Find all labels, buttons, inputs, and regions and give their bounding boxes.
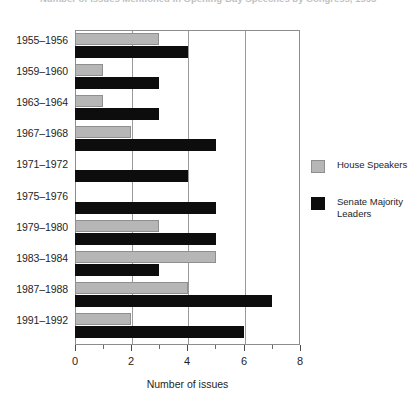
bar-house-speakers (75, 282, 188, 294)
legend-swatch-icon (311, 160, 325, 173)
category-label: 1979–1980 (0, 221, 68, 233)
bar-senate-majority-leaders (75, 77, 159, 89)
chart-title: Number of Issues Mentioned in Opening-Da… (40, 0, 380, 7)
bar-house-speakers (75, 33, 159, 45)
x-tick-label: 6 (229, 355, 259, 367)
bar-senate-majority-leaders (75, 139, 216, 151)
legend-label: House Speakers (337, 159, 417, 171)
x-tick-minor (272, 345, 273, 349)
bar-senate-majority-leaders (75, 233, 216, 245)
bar-house-speakers (75, 251, 216, 263)
category-label: 1967–1968 (0, 127, 68, 139)
category-label: 1975–1976 (0, 190, 68, 202)
x-tick-minor (159, 345, 160, 349)
x-tick-major (75, 345, 76, 351)
category-label: 1959–1960 (0, 65, 68, 77)
bar-chart: Number of Issues Mentioned in Opening-Da… (0, 0, 417, 420)
category-label: 1971–1972 (0, 158, 68, 170)
bar-house-speakers (75, 95, 103, 107)
category-label: 1955–1956 (0, 34, 68, 46)
x-tick-major (131, 345, 132, 351)
category-label: 1991–1992 (0, 314, 68, 326)
x-tick-label: 4 (172, 355, 202, 367)
bar-house-speakers (75, 220, 159, 232)
bar-senate-majority-leaders (75, 108, 159, 120)
bar-house-speakers (75, 313, 131, 325)
bar-senate-majority-leaders (75, 264, 159, 276)
bar-senate-majority-leaders (75, 295, 272, 307)
bar-senate-majority-leaders (75, 326, 244, 338)
x-tick-minor (215, 345, 216, 349)
category-label: 1983–1984 (0, 252, 68, 264)
x-tick-major (187, 345, 188, 351)
bar-house-speakers (75, 64, 103, 76)
x-tick-major (300, 345, 301, 351)
legend-label: Senate Majority Leaders (337, 196, 417, 219)
category-label: 1987–1988 (0, 283, 68, 295)
bar-senate-majority-leaders (75, 46, 188, 58)
x-tick-major (244, 345, 245, 351)
x-tick-label: 2 (116, 355, 146, 367)
category-label: 1963–1964 (0, 96, 68, 108)
bar-rows (75, 30, 300, 345)
x-tick-label: 8 (285, 355, 315, 367)
x-axis-title: Number of issues (75, 378, 300, 390)
bar-senate-majority-leaders (75, 170, 188, 182)
bar-senate-majority-leaders (75, 202, 216, 214)
x-tick-minor (103, 345, 104, 349)
bar-house-speakers (75, 126, 131, 138)
x-tick-label: 0 (60, 355, 90, 367)
legend-swatch-icon (311, 197, 325, 210)
